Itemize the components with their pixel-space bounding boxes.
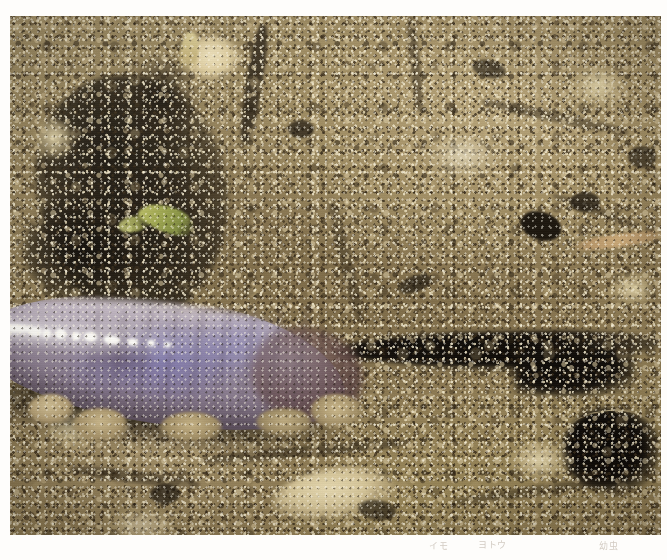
caption-segment: 幼虫	[599, 541, 618, 552]
larva-specular-dash	[27, 326, 42, 337]
soil-crumb	[256, 408, 312, 436]
dark-fleck	[628, 146, 656, 168]
organic-matter-left	[24, 196, 152, 306]
larva-specular-dash	[103, 334, 120, 344]
larva-specular-dash	[164, 342, 170, 347]
pale-stone	[106, 508, 176, 535]
larva-specular-dash	[54, 328, 66, 339]
pale-stone	[610, 272, 656, 306]
soil-crumb	[72, 408, 128, 442]
larva-specular-dash	[72, 331, 80, 339]
figure-caption: イモ ヨトウ 幼虫	[10, 540, 661, 558]
pale-stone	[34, 120, 74, 158]
larva-specular-dash	[147, 340, 154, 347]
soil-crumb	[28, 394, 74, 424]
page-canvas: イモ ヨトウ 幼虫	[0, 0, 667, 560]
dark-fleck	[288, 120, 314, 138]
larva-specular-dash	[128, 337, 139, 345]
caption-segment: イモ	[429, 541, 448, 552]
crevice-right-lobe	[515, 348, 635, 396]
larva-specular-dash	[84, 332, 98, 342]
dark-fleck	[150, 484, 180, 504]
pale-stone	[508, 440, 570, 480]
soil-crumb	[310, 394, 362, 428]
pale-stone	[428, 136, 498, 178]
dark-fleck	[570, 192, 600, 212]
soil-crumb	[160, 412, 222, 442]
caption-segment: ヨトウ	[478, 540, 507, 551]
photograph	[10, 16, 661, 535]
pale-stone	[570, 68, 626, 108]
larva-specular-dash	[42, 328, 52, 338]
